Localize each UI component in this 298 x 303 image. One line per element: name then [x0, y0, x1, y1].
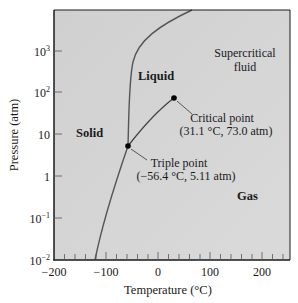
region-label-supercritical: Supercritical — [214, 46, 276, 60]
region-label-solid: Solid — [76, 126, 103, 140]
triple-point-coords: (−56.4 °C, 5.11 atm) — [136, 169, 235, 183]
critical-point-coords: (31.1 °C, 73.0 atm) — [180, 124, 273, 138]
svg-text:103: 103 — [34, 44, 50, 59]
svg-text:10: 10 — [38, 128, 50, 142]
triple-point-marker — [125, 143, 131, 149]
svg-text:0: 0 — [155, 265, 161, 279]
region-label-gas: Gas — [237, 189, 258, 203]
y-axis-title: Pressure (atm) — [7, 99, 21, 172]
svg-text:10−1: 10−1 — [29, 211, 50, 226]
svg-text:1: 1 — [44, 170, 50, 184]
svg-text:200: 200 — [253, 265, 271, 279]
y-tick-labels: 103 102 10 1 10−1 10−2 — [29, 44, 50, 268]
x-axis-title: Temperature (°C) — [124, 283, 212, 297]
svg-text:−200: −200 — [42, 265, 67, 279]
region-label-liquid: Liquid — [138, 69, 174, 83]
region-label-fluid: fluid — [234, 60, 257, 74]
triple-point-title: Triple point — [151, 156, 208, 170]
x-tick-labels: −200 −100 0 100 200 — [42, 265, 271, 279]
svg-text:102: 102 — [34, 85, 50, 100]
critical-point-marker — [171, 95, 177, 101]
phase-diagram: 103 102 10 1 10−1 10−2 −200 −100 0 100 2… — [0, 0, 298, 303]
svg-text:100: 100 — [201, 265, 219, 279]
critical-point-title: Critical point — [190, 111, 254, 125]
svg-text:−100: −100 — [94, 265, 119, 279]
